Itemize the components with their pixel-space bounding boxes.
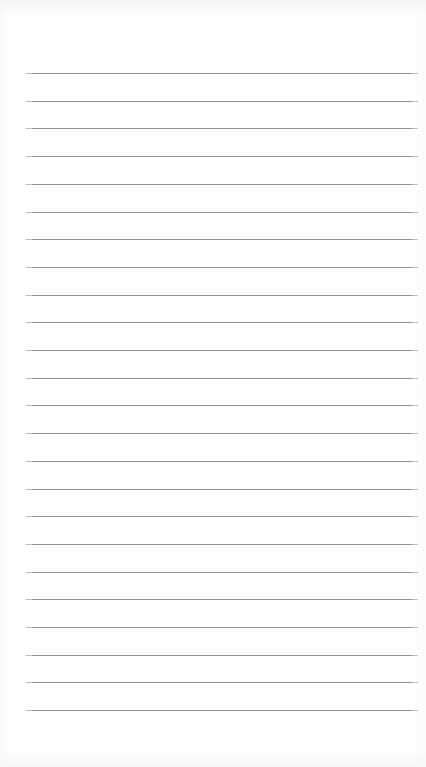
writing-area[interactable] bbox=[0, 0, 426, 767]
ruled-paper-page bbox=[0, 0, 426, 767]
